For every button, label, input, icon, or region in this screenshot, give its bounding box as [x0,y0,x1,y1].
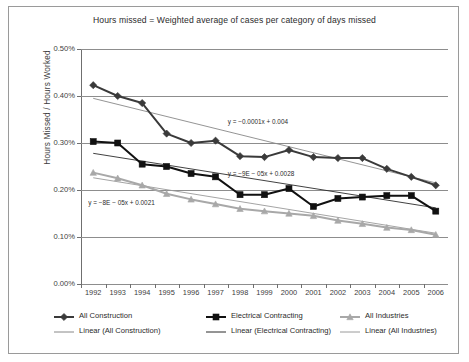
data-point-diamond [114,92,121,99]
x-tick-mark [253,284,254,288]
x-tick-mark [350,284,351,288]
data-point-diamond [408,173,415,180]
chart-legend: All ConstructionElectrical ContractingAl… [9,307,460,341]
data-point-diamond [359,154,366,161]
data-point-square [188,171,194,177]
data-point-diamond [310,154,317,161]
legend-label: Electrical Contracting [231,311,303,320]
x-tick-mark [155,284,156,288]
data-point-square [310,203,316,209]
data-point-square [433,208,439,214]
trendline-equation: y = −0.0001x + 0.004 [228,118,288,125]
y-tick-label: 0.10% [29,232,75,241]
legend-label: Linear (Electrical Contracting) [231,326,331,335]
legend-label: Linear (All Construction) [79,326,160,335]
x-tick-mark [81,284,82,288]
data-point-diamond [90,82,97,89]
data-point-square [359,194,365,200]
data-point-square [90,139,96,145]
y-tick-label: 0.30% [29,138,75,147]
data-point-diamond [334,154,341,161]
data-point-diamond [60,313,67,320]
legend-key-none [339,327,361,337]
legend-label: All Industries [365,311,408,320]
x-tick-mark [130,284,131,288]
x-tick-mark [399,284,400,288]
x-tick-mark [326,284,327,288]
data-point-square [213,174,219,180]
y-tick-label: 0.20% [29,185,75,194]
x-tick-mark [179,284,180,288]
x-tick-mark [424,284,425,288]
legend-key-square [205,312,227,322]
legend-key-diamond [53,312,75,322]
data-point-square [237,192,243,198]
legend-key-none [53,327,75,337]
chart-frame: Hours missed = Weighted average of cases… [8,6,459,354]
data-point-square [262,192,268,198]
plot-svg [81,49,448,284]
data-point-square [384,193,390,199]
x-tick-mark [277,284,278,288]
x-tick-label: 2006 [419,288,453,297]
y-tick-label: 0.50% [29,44,75,53]
legend-label: Linear (All Industries) [365,326,437,335]
trendline-equation: y = −8E − 05x + 0.0021 [88,199,154,206]
data-point-square [164,164,170,170]
x-tick-mark [375,284,376,288]
data-point-square [335,195,341,201]
data-point-square [139,161,145,167]
data-point-square [213,314,219,320]
data-point-square [408,193,414,199]
y-tick-label: 0.40% [29,91,75,100]
x-tick-mark [204,284,205,288]
chart-title: Hours missed = Weighted average of cases… [9,15,460,25]
x-tick-mark [106,284,107,288]
gridline [81,284,448,285]
legend-key-triangle [339,312,361,322]
trendline-equation: y = −9E − 05x + 0.0028 [228,170,294,177]
y-tick-label: 0.00% [29,279,75,288]
x-tick-mark [228,284,229,288]
legend-key-none [205,327,227,337]
data-point-square [115,140,121,146]
data-point-diamond [261,154,268,161]
data-point-square [286,186,292,192]
legend-label: All Construction [79,311,132,320]
data-point-diamond [188,139,195,146]
plot-area [81,49,448,284]
x-tick-mark [301,284,302,288]
